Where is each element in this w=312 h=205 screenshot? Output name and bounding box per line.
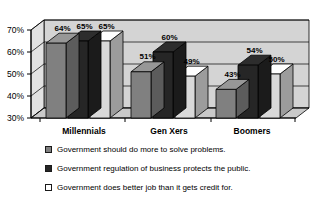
legend-swatch-series-3 (45, 184, 52, 191)
value-label-boomers-series-2: 54% (246, 46, 262, 55)
value-label-boomers-series-1: 43% (224, 70, 240, 79)
bar-boomers-series-1 (216, 79, 249, 118)
bar-millennials-series-1 (46, 33, 79, 118)
chart-legend: Government should do more to solve probl… (0, 140, 312, 205)
y-tick-marks (27, 30, 31, 118)
chart-container: 70% 60% 50% 40% 30% 65%65%64%49%60%51%50… (0, 0, 312, 205)
value-label-gen-xers-series-1: 51% (139, 52, 155, 61)
legend-swatch-series-1 (45, 146, 52, 153)
legend-item-2: Government does better job than it gets … (0, 178, 312, 197)
bar-chart-plot: 70% 60% 50% 40% 30% 65%65%64%49%60%51%50… (0, 0, 312, 142)
bar-gen-xers-series-1 (131, 62, 164, 118)
value-label-millennials-series-3: 65% (98, 22, 114, 31)
legend-item-0: Government should do more to solve probl… (0, 140, 312, 159)
y-tick-label-60: 60% (7, 47, 24, 57)
value-label-gen-xers-series-3: 49% (183, 57, 199, 66)
value-label-gen-xers-series-2: 60% (161, 33, 177, 42)
x-tick-marks (40, 118, 295, 122)
value-label-boomers-series-3: 50% (268, 55, 284, 64)
x-category-label-1: Gen Xers (150, 126, 188, 136)
legend-swatch-series-2 (45, 165, 52, 172)
legend-label-series-1: Government should do more to solve probl… (57, 146, 226, 154)
y-tick-label-30: 30% (7, 113, 24, 123)
y-tick-label-70: 70% (7, 25, 24, 35)
legend-label-series-2: Government regulation of business protec… (57, 165, 250, 173)
x-category-label-0: Millennials (62, 126, 106, 136)
y-tick-label-40: 40% (7, 91, 24, 101)
legend-item-1: Government regulation of business protec… (0, 159, 312, 178)
value-label-millennials-series-1: 64% (54, 24, 70, 33)
value-label-millennials-series-2: 65% (76, 22, 92, 31)
legend-label-series-3: Government does better job than it gets … (57, 184, 233, 192)
y-tick-label-50: 50% (7, 69, 24, 79)
x-category-label-2: Boomers (234, 126, 271, 136)
